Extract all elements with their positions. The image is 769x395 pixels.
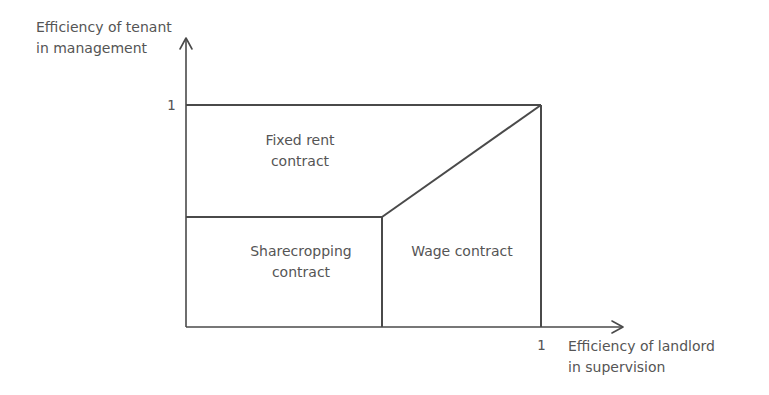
y-tick-1: 1 (167, 97, 175, 113)
diagonal-boundary-line (382, 105, 541, 217)
x-axis-label: Efficiency of landlord in supervision (568, 336, 715, 378)
fixed-rent-line1: Fixed rent (240, 130, 360, 151)
sharecropping-line1: Sharecropping (236, 241, 366, 262)
fixed-rent-line2: contract (240, 151, 360, 172)
wage-line1: Wage contract (400, 241, 524, 262)
x-axis-label-line1: Efficiency of landlord (568, 336, 715, 357)
y-axis-label: Efficiency of tenant in management (36, 17, 172, 59)
x-tick-1: 1 (537, 337, 545, 353)
sharecropping-line2: contract (236, 262, 366, 283)
region-wage-label: Wage contract (400, 241, 524, 262)
y-axis-label-line1: Efficiency of tenant (36, 17, 172, 38)
region-sharecropping-label: Sharecropping contract (236, 241, 366, 283)
y-axis-label-line2: in management (36, 38, 172, 59)
x-axis-label-line2: in supervision (568, 357, 715, 378)
region-fixed-rent-label: Fixed rent contract (240, 130, 360, 172)
